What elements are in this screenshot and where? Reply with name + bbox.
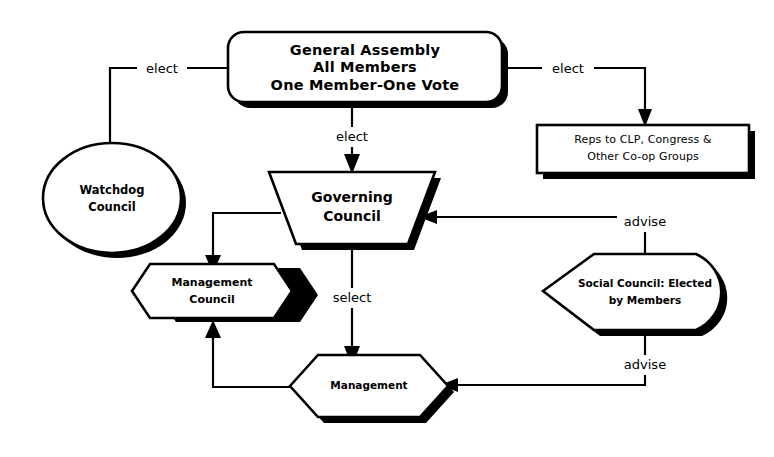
hexagon-shape xyxy=(132,264,292,318)
edge-ga-to-reps: elect xyxy=(505,58,652,127)
edge-label-elect-watchdog: elect xyxy=(146,61,178,76)
node-label-line: One Member-One Vote xyxy=(271,77,460,93)
diagram-canvas: elect elect elect select xyxy=(0,0,774,457)
edge-social-to-governing: advise xyxy=(419,210,673,255)
ellipse-shape xyxy=(43,143,181,253)
node-label-line: Council xyxy=(323,208,381,224)
node-label-line: Social Council: Elected xyxy=(578,277,712,289)
node-label-line: Council xyxy=(189,293,234,306)
flag-pointed-left-shape xyxy=(543,254,721,330)
node-label-line: Management xyxy=(330,379,407,391)
edge-line xyxy=(110,68,228,150)
node-label-line: Watchdog xyxy=(80,183,145,197)
node-label-line: All Members xyxy=(313,59,417,75)
edge-label-advise-management: advise xyxy=(624,357,666,372)
edge-line xyxy=(213,335,290,387)
node-label-line: Reps to CLP, Congress & xyxy=(574,133,712,146)
node-label-line: Council xyxy=(88,200,135,214)
edge-line xyxy=(455,330,645,385)
node-watchdog-council[interactable]: Watchdog Council xyxy=(43,143,186,258)
edge-line xyxy=(213,213,281,258)
node-reps-group[interactable]: Reps to CLP, Congress & Other Co-op Grou… xyxy=(537,125,755,179)
node-governing-council[interactable]: Governing Council xyxy=(269,172,441,250)
edge-ga-to-governing: elect xyxy=(327,106,377,174)
node-label-line: by Members xyxy=(609,294,682,306)
edge-label-select: select xyxy=(333,290,372,305)
edge-line xyxy=(434,217,645,255)
arrowhead-up-icon xyxy=(205,320,221,338)
node-label-line: Governing xyxy=(311,189,392,205)
node-social-council[interactable]: Social Council: Elected by Members xyxy=(543,254,727,336)
edge-governing-to-management: select xyxy=(325,247,379,366)
edge-label-elect-governing: elect xyxy=(336,129,368,144)
node-label-line: Management xyxy=(172,276,253,289)
node-label-line: General Assembly xyxy=(290,42,441,58)
node-general-assembly[interactable]: General Assembly All Members One Member-… xyxy=(228,32,508,108)
node-label-line: Other Co-op Groups xyxy=(587,150,699,163)
edge-social-to-management: advise xyxy=(440,330,673,392)
org-chart-diagram: elect elect elect select xyxy=(0,0,774,457)
edge-label-advise-governing: advise xyxy=(624,214,666,229)
node-management-council[interactable]: Management Council xyxy=(132,264,318,322)
node-management[interactable]: Management xyxy=(290,355,454,423)
edge-label-elect-reps: elect xyxy=(552,61,584,76)
edge-management-to-management-council xyxy=(205,320,290,387)
